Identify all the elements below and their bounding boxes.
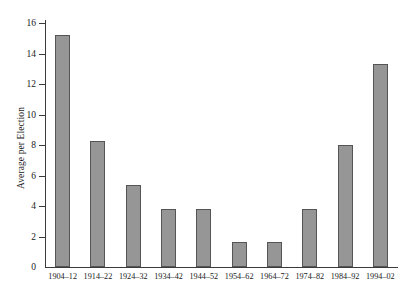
x-tick-label: 1914–22 xyxy=(84,272,113,282)
y-tick-mark xyxy=(39,237,45,238)
y-tick-label: 0 xyxy=(6,263,36,273)
bar xyxy=(267,242,282,267)
y-tick-mark xyxy=(39,84,45,85)
x-tick-label: 1954–62 xyxy=(225,272,254,282)
y-tick-4: 4 xyxy=(0,206,36,207)
bar xyxy=(338,145,353,267)
y-tick-2: 2 xyxy=(0,237,36,238)
bar xyxy=(126,185,141,267)
bar xyxy=(232,242,247,267)
y-tick-mark xyxy=(39,23,45,24)
x-tick-label: 1944–52 xyxy=(190,272,219,282)
x-axis-line xyxy=(45,267,398,268)
x-tick-label: 1974–82 xyxy=(295,272,324,282)
y-tick-label: 6 xyxy=(6,171,36,181)
y-tick-mark xyxy=(39,176,45,177)
y-tick-8: 8 xyxy=(0,145,36,146)
bar xyxy=(373,64,388,267)
x-tick-label: 1934–42 xyxy=(154,272,183,282)
x-tick-label: 1924–32 xyxy=(119,272,148,282)
y-tick-10: 10 xyxy=(0,115,36,116)
y-tick-label: 2 xyxy=(6,232,36,242)
y-tick-6: 6 xyxy=(0,176,36,177)
y-tick-label: 16 xyxy=(6,19,36,29)
bar xyxy=(55,35,70,267)
bar-chart: Average per Election 0246810121416 1904–… xyxy=(0,0,416,296)
bar xyxy=(161,209,176,267)
y-tick-label: 4 xyxy=(6,202,36,212)
y-tick-12: 12 xyxy=(0,84,36,85)
y-tick-label: 14 xyxy=(6,49,36,59)
x-tick-label: 1994–02 xyxy=(366,272,395,282)
x-tick-label: 1904–12 xyxy=(48,272,77,282)
bar xyxy=(196,209,211,267)
x-tick-label: 1984–92 xyxy=(331,272,360,282)
y-tick-label: 10 xyxy=(6,110,36,120)
y-tick-16: 16 xyxy=(0,23,36,24)
y-tick-mark xyxy=(39,206,45,207)
x-tick-label: 1964–72 xyxy=(260,272,289,282)
y-tick-mark xyxy=(39,145,45,146)
y-tick-label: 12 xyxy=(6,80,36,90)
y-tick-0: 0 xyxy=(0,267,36,268)
y-tick-mark xyxy=(39,54,45,55)
bar xyxy=(302,209,317,267)
bar xyxy=(90,141,105,267)
y-tick-label: 8 xyxy=(6,141,36,151)
y-axis-line xyxy=(45,20,46,267)
y-tick-14: 14 xyxy=(0,54,36,55)
y-tick-mark xyxy=(39,115,45,116)
